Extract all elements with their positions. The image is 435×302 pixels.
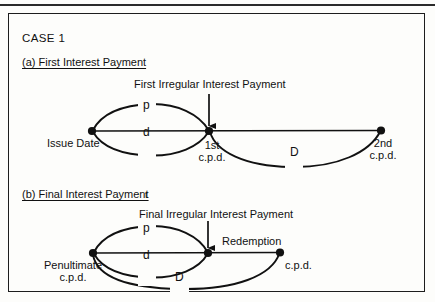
panel-b-label-penultimate-line1: Penultimate (33, 259, 113, 271)
panel-a-node-first-cpd (205, 127, 213, 135)
panel-a-heading: (a) First Interest Payment (22, 56, 146, 68)
panel-b-node-redemption-cpd (276, 248, 284, 256)
panel-a-label-second-cpd-line2: c.p.d. (362, 149, 404, 161)
panel-b-node-final-irregular (204, 249, 212, 257)
panel-a-label-first-cpd-line2: c.p.d. (190, 151, 234, 163)
panel-b-heading: (b) Final Interest Payment (22, 188, 149, 200)
case-title: CASE 1 (22, 32, 65, 45)
panel-b-heading-suffix: t (145, 190, 148, 200)
panel-a-node-second-cpd (377, 126, 385, 134)
panel-b-d-label-gap (138, 271, 156, 286)
figure-page: CASE 1 (a) First Interest Payment First … (0, 0, 435, 302)
panel-a-d-label-gap (138, 148, 156, 163)
panel-b-arc-label-p: p (143, 222, 150, 235)
panel-a-label-first-cpd-line1: 1st (190, 139, 234, 151)
panel-a-timeline (92, 131, 381, 132)
panel-a-node-issue-date (88, 127, 96, 135)
panel-b-node-penultimate-cpd (89, 249, 97, 257)
panel-a-D-label-gap (285, 160, 303, 175)
panel-b-label-redemption-cpd: c.p.d. (285, 259, 312, 271)
panel-b-arc-label-D: D (175, 271, 184, 284)
panel-a-arc-label-d: d (143, 126, 150, 139)
panel-a-label-second-cpd: 2nd c.p.d. (362, 137, 404, 162)
panel-b-label-redemption: Redemption (222, 235, 281, 247)
panel-a-label-second-cpd-line1: 2nd (362, 137, 404, 149)
panel-a-arc-label-p: p (143, 99, 150, 112)
panel-b-timeline (93, 253, 280, 254)
panel-a-callout-label: First Irregular Interest Payment (134, 78, 286, 90)
panel-b-label-penultimate-cpd: Penultimate c.p.d. (33, 259, 113, 284)
panel-b-label-penultimate-line2: c.p.d. (33, 271, 113, 283)
panel-b-callout-label: Final Irregular Interest Payment (139, 208, 293, 220)
panel-a-arc-label-D: D (290, 146, 299, 159)
panel-a-label-issue-date: Issue Date (47, 137, 100, 149)
panel-b-arc-label-d: d (143, 249, 150, 262)
panel-a-label-first-cpd: 1st c.p.d. (190, 139, 234, 164)
